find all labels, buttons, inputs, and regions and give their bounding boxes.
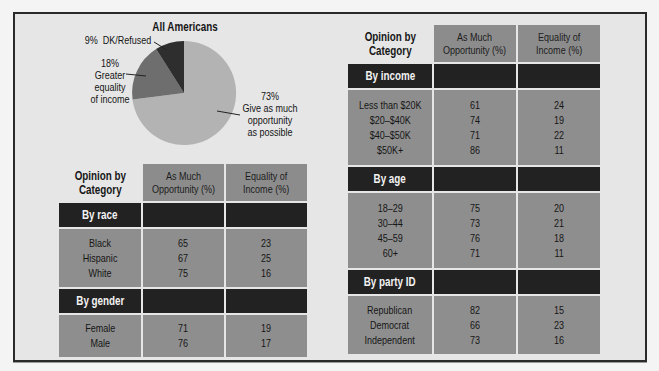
race-eq: 23 25 16 <box>261 236 271 281</box>
opp-l1: As Much <box>166 170 201 182</box>
table-row: Republican Democrat Independent 82 66 73… <box>348 296 600 354</box>
pie-label-equality: 18% Greater equality of income <box>85 57 134 105</box>
opportunity-line2: opportunity <box>237 114 303 126</box>
opp-values: 75 73 76 71 <box>434 193 516 268</box>
age-labels: 18–29 30–44 45–59 60+ <box>377 201 402 261</box>
race-opp: 65 67 75 <box>178 236 188 281</box>
age-title: By age <box>374 172 406 186</box>
col-header-equality: Equality ofIncome (%) <box>226 164 307 201</box>
opp-l2: Opportunity (%) <box>152 183 215 195</box>
age-eq: 20 21 18 11 <box>554 201 564 261</box>
section-row-income: By income <box>348 64 600 88</box>
gender-eq: 19 17 <box>261 321 271 351</box>
equality-line3: of income <box>85 93 134 105</box>
opportunity-pct: 73% <box>237 90 303 102</box>
opp-l2: Opportunity (%) <box>443 44 506 56</box>
pie-label-dk: 9% DK/Refused <box>77 34 159 46</box>
cat-l1: Opinion by <box>74 169 125 183</box>
row-labels: Black Hispanic White <box>59 229 141 287</box>
col-header-opportunity: As MuchOpportunity (%) <box>434 25 516 62</box>
col-header-category: Opinion byCategory <box>59 164 141 201</box>
income-labels: Less than $20K $20–$40K $40–$50K $50K+ <box>359 98 422 158</box>
section-row-gender: By gender <box>59 289 307 313</box>
party-eq: 15 23 16 <box>554 303 564 348</box>
race-labels: Black Hispanic White <box>83 236 118 281</box>
col-header-category: Opinion byCategory <box>348 25 432 62</box>
cat-l2: Category <box>79 183 122 197</box>
opp-l1: As Much <box>457 31 492 43</box>
opportunity-line1: Give as much <box>237 102 303 114</box>
table-row: Less than $20K $20–$40K $40–$50K $50K+ 6… <box>348 90 600 165</box>
eq-values: 19 17 <box>226 315 307 357</box>
cat-l1: Opinion by <box>364 30 415 44</box>
eq-l2: Income (%) <box>536 44 582 56</box>
gender-opp: 71 76 <box>178 321 188 351</box>
pie-label-opportunity: 73% Give as much opportunity as possible <box>237 90 303 138</box>
eq-values: 23 25 16 <box>226 229 307 287</box>
section-row-race: By race <box>59 203 307 227</box>
opp-values: 65 67 75 <box>143 229 224 287</box>
table-row: Black Hispanic White 65 67 75 23 25 16 <box>59 229 307 287</box>
row-labels: Female Male <box>59 315 141 357</box>
income-eq: 24 19 22 11 <box>554 98 564 158</box>
party-title: By party ID <box>364 275 416 289</box>
section-row-age: By age <box>348 167 600 191</box>
equality-line1: Greater <box>85 69 134 81</box>
pie-title: All Americans <box>148 21 222 33</box>
section-title: By income <box>348 64 432 88</box>
section-title: By age <box>348 167 432 191</box>
table-row: 18–29 30–44 45–59 60+ 75 73 76 71 20 21 … <box>348 193 600 268</box>
dk-pct: 9% <box>85 34 98 46</box>
income-opp: 61 74 71 86 <box>470 98 480 158</box>
gender-labels: Female Male <box>85 321 115 351</box>
gender-title: By gender <box>76 294 124 308</box>
row-labels: Republican Democrat Independent <box>348 296 432 354</box>
equality-pct: 18% <box>85 57 134 69</box>
opportunity-line3: as possible <box>237 126 303 138</box>
table-row: Female Male 71 76 19 17 <box>59 315 307 357</box>
race-title: By race <box>82 208 118 222</box>
row-labels: Less than $20K $20–$40K $40–$50K $50K+ <box>348 90 432 165</box>
eq-values: 15 23 16 <box>518 296 600 354</box>
col-header-opportunity: As MuchOpportunity (%) <box>143 164 224 201</box>
row-labels: 18–29 30–44 45–59 60+ <box>348 193 432 268</box>
eq-values: 24 19 22 11 <box>518 90 600 165</box>
dk-label: DK/Refused <box>103 34 152 46</box>
table-race-gender: Opinion byCategory As MuchOpportunity (%… <box>57 162 309 359</box>
eq-values: 20 21 18 11 <box>518 193 600 268</box>
equality-line2: equality <box>85 81 134 93</box>
eq-l2: Income (%) <box>243 183 289 195</box>
section-row-party: By party ID <box>348 270 600 294</box>
party-labels: Republican Democrat Independent <box>365 303 415 348</box>
age-opp: 75 73 76 71 <box>470 201 480 261</box>
eq-l1: Equality of <box>538 31 580 43</box>
cat-l2: Category <box>369 44 412 58</box>
section-title: By gender <box>59 289 141 313</box>
section-title: By race <box>59 203 141 227</box>
opp-values: 71 76 <box>143 315 224 357</box>
section-title: By party ID <box>348 270 432 294</box>
opp-values: 82 66 73 <box>434 296 516 354</box>
col-header-equality: Equality ofIncome (%) <box>518 25 600 62</box>
table-income-age-party: Opinion byCategory As MuchOpportunity (%… <box>346 23 602 356</box>
income-title: By income <box>365 69 415 83</box>
eq-l1: Equality of <box>245 170 287 182</box>
opp-values: 61 74 71 86 <box>434 90 516 165</box>
party-opp: 82 66 73 <box>470 303 480 348</box>
